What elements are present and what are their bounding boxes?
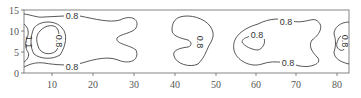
x-tick-label: 30 [129,79,139,90]
contour-label: 0.8 [340,35,350,48]
y-tick-label: 15 [9,5,19,16]
contour-label: 0.8 [66,11,79,21]
x-tick-label: 70 [291,79,301,90]
y-axis: 15 10 5 0 [9,5,24,79]
contour-label: 0.8 [251,30,264,40]
contour-label: 0.8 [66,62,79,72]
x-tick-label: 80 [332,79,342,90]
x-tick-label: 40 [170,79,180,90]
contour-label: 0.8 [280,17,293,27]
contour-labels: 0.8 0.8 1.1 0.8 0.8 0.8 0.8 0.8 0.8 [24,11,350,72]
contour-label: 0.8 [282,58,295,68]
x-axis: 10 20 30 40 50 60 70 80 [47,73,342,90]
x-tick-label: 10 [47,79,57,90]
x-tick-label: 60 [251,79,261,90]
y-tick-label: 0 [14,68,19,79]
y-tick-label: 5 [14,47,19,58]
contour-label: 0.8 [195,36,205,49]
contour-label: 0.8 [54,35,64,48]
contour-chart: 15 10 5 0 10 20 30 40 50 60 70 80 [0,0,361,98]
x-tick-label: 20 [88,79,98,90]
contour-lines [24,14,349,67]
y-tick-label: 10 [9,26,19,37]
x-tick-label: 50 [211,79,221,90]
contour-label: 1.1 [24,36,34,49]
